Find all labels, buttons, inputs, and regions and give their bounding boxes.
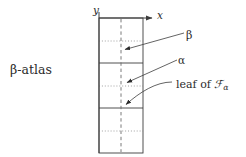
alpha-label: α xyxy=(178,55,185,66)
figure-canvas: β-atlas y x β α leaf of ℱα xyxy=(0,0,246,157)
leaf-of-foliation-label: leaf of ℱα xyxy=(176,79,229,92)
y-axis-label: y xyxy=(93,5,99,16)
leaf-lines xyxy=(99,41,143,131)
x-axis-label: x xyxy=(157,10,163,21)
beta-atlas-label: β-atlas xyxy=(10,64,52,77)
script-f-icon: ℱ xyxy=(214,78,223,91)
leaf-pointer-arrow xyxy=(126,82,172,105)
leaf-prefix-text: leaf of xyxy=(176,78,214,91)
beta-label: β xyxy=(186,30,192,41)
leaf-subscript-text: α xyxy=(223,83,228,92)
